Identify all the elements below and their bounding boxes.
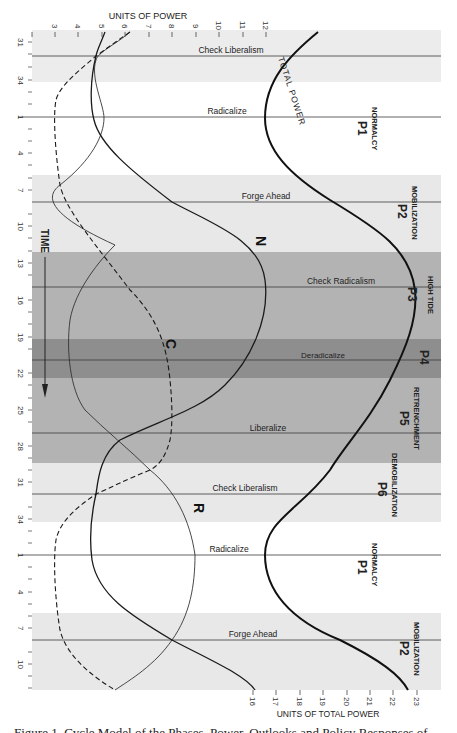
top-tick-4: 4 <box>73 24 82 29</box>
time-axis: 31 34 1 4 7 10 13 16 19 22 25 28 31 34 1… <box>16 38 32 688</box>
phase-name-retrenchment: RETRENCHMENT <box>412 387 421 450</box>
event-label-radicalize-1: Radicalize <box>207 106 246 116</box>
time-tick-4a: 4 <box>16 151 25 156</box>
band-p3 <box>32 252 441 339</box>
event-label-radicalize-2: Radicalize <box>209 544 248 554</box>
top-tick-7: 7 <box>144 24 153 29</box>
time-tick-7a: 7 <box>16 188 25 193</box>
top-tick-8: 8 <box>167 24 176 29</box>
phase-id-p2b: P2 <box>397 641 411 656</box>
phase-name-high-tide: HIGH TIDE <box>426 276 435 314</box>
time-tick-28: 28 <box>16 442 25 451</box>
bottom-tick-18: 18 <box>295 697 304 706</box>
bottom-tick-20: 20 <box>342 697 351 706</box>
top-tick-6: 6 <box>120 24 129 29</box>
bottom-tick-16: 16 <box>248 697 257 706</box>
time-label: TIME <box>39 229 50 253</box>
event-label-check-liberalism-1: Check Liberalism <box>198 45 263 55</box>
time-tick-22: 22 <box>16 369 25 378</box>
bottom-tick-22: 22 <box>388 697 397 706</box>
top-tick-3: 3 <box>50 24 59 29</box>
phase-id-p6: P6 <box>375 482 389 497</box>
bottom-axis-title: UNITS OF TOTAL POWER <box>277 709 380 719</box>
event-label-forge-ahead-2: Forge Ahead <box>229 629 278 639</box>
time-tick-34a: 34 <box>16 76 25 85</box>
band-p2a <box>32 175 441 252</box>
phase-id-p1a: P1 <box>355 121 369 136</box>
top-tick-9: 9 <box>191 24 200 29</box>
top-tick-12: 12 <box>261 21 270 30</box>
time-tick-4b: 4 <box>16 590 25 595</box>
event-label-deradicalize: Deradicalize <box>301 351 346 360</box>
phase-name-mobilization-2: MOBILIZATION <box>412 622 421 676</box>
top-tick-5: 5 <box>97 24 106 29</box>
bottom-axis: 16 17 18 19 20 21 22 23 UNITS OF TOTAL P… <box>248 690 421 719</box>
top-tick-11: 11 <box>238 21 247 30</box>
figure-caption: Figure 1. Cycle Model of the Phases, Pow… <box>14 722 454 733</box>
time-tick-10b: 10 <box>16 660 25 669</box>
time-tick-7b: 7 <box>16 626 25 631</box>
bottom-tick-21: 21 <box>365 697 374 706</box>
phase-name-normalcy-2: NORMALCY <box>370 543 379 586</box>
phase-id-p3: P3 <box>405 287 419 302</box>
time-tick-19: 19 <box>16 333 25 342</box>
bottom-tick-19: 19 <box>318 697 327 706</box>
event-label-check-radicalism: Check Radicalism <box>307 276 375 286</box>
time-tick-1b: 1 <box>16 553 25 558</box>
time-tick-16: 16 <box>16 296 25 305</box>
curve-label-r: R <box>191 503 207 513</box>
event-label-forge-ahead-1: Forge Ahead <box>242 191 291 201</box>
time-tick-1a: 1 <box>16 115 25 120</box>
curve-label-n: N <box>253 236 269 246</box>
time-tick-25: 25 <box>16 406 25 415</box>
event-label-liberalize: Liberalize <box>250 423 287 433</box>
band-p5 <box>32 378 441 463</box>
time-tick-10a: 10 <box>16 222 25 231</box>
event-label-check-liberalism-2: Check Liberalism <box>212 483 277 493</box>
bottom-tick-23: 23 <box>412 697 421 706</box>
phase-id-p4: P4 <box>417 350 431 365</box>
phase-id-p5: P5 <box>397 411 411 426</box>
curve-label-c: C <box>163 339 179 349</box>
phase-name-mobilization-1: MOBILIZATION <box>410 186 419 240</box>
phase-id-p2a: P2 <box>395 204 409 219</box>
top-axis-title: UNITS OF POWER <box>109 11 188 21</box>
cycle-model-figure: Check Liberalism Radicalize Forge Ahead … <box>0 0 457 733</box>
top-tick-10: 10 <box>214 21 223 30</box>
time-tick-13: 13 <box>16 259 25 268</box>
bottom-tick-17: 17 <box>271 697 280 706</box>
time-tick-31a: 31 <box>16 38 25 47</box>
band-p2b <box>32 613 441 690</box>
phase-name-normalcy-1b: NORMALCY <box>370 107 379 150</box>
phase-id-p1b: P1 <box>355 560 369 575</box>
phase-name-demobilization: DEMOBILIZATION <box>390 453 399 517</box>
time-tick-34b: 34 <box>16 515 25 524</box>
time-tick-31b: 31 <box>16 478 25 487</box>
